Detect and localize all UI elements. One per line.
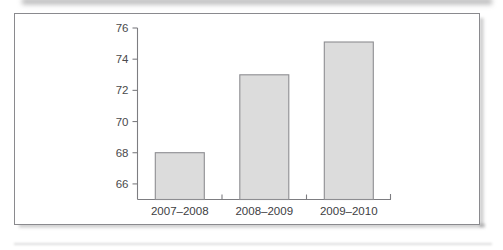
x-category-label: 2009–2010 — [320, 205, 378, 217]
bar-chart: 666870727476 2007–20082008–20092009–2010 — [0, 0, 503, 250]
y-tick-label: 68 — [116, 147, 129, 159]
bar — [155, 153, 204, 200]
y-tick-label: 76 — [116, 22, 129, 34]
y-tick-label: 66 — [116, 178, 129, 190]
x-axis-category-labels: 2007–20082008–20092009–2010 — [151, 205, 378, 217]
bar-series — [155, 42, 373, 200]
bar — [324, 42, 373, 200]
x-category-label: 2007–2008 — [151, 205, 209, 217]
y-axis-tick-labels: 666870727476 — [116, 22, 129, 190]
y-axis-group: 666870727476 — [116, 22, 138, 200]
bar — [240, 75, 289, 200]
y-tick-label: 74 — [116, 53, 129, 65]
x-category-label: 2008–2009 — [235, 205, 293, 217]
chart-svg: 666870727476 2007–20082008–20092009–2010 — [0, 0, 503, 250]
y-tick-label: 70 — [116, 116, 129, 128]
y-axis-ticks — [133, 28, 138, 184]
scanned-page-background: 666870727476 2007–20082008–20092009–2010 — [0, 0, 503, 250]
y-tick-label: 72 — [116, 84, 129, 96]
